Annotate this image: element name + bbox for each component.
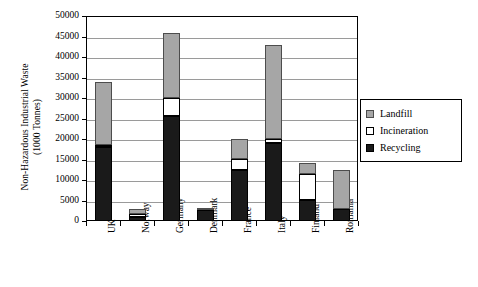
y-axis-tick-label: 0	[31, 216, 79, 226]
stacked-bar-chart: Non-Hazardous Industrial Waste (1000 Ton…	[0, 0, 478, 287]
bar-segment-recycling	[163, 116, 180, 221]
y-axis-tick-mark	[82, 78, 86, 79]
chart-legend: Landfill Incineration Recycling	[360, 99, 462, 162]
y-axis-tick-label: 20000	[31, 134, 79, 144]
bar-segment-landfill	[129, 209, 146, 214]
bar-segment-recycling	[95, 147, 112, 221]
bar-segment-recycling	[299, 200, 316, 221]
bar-segment-recycling	[197, 210, 214, 221]
y-axis-tick-mark	[82, 180, 86, 181]
y-axis-tick-mark	[82, 98, 86, 99]
x-axis-tick-mark	[154, 221, 155, 226]
incineration-swatch-icon	[366, 127, 374, 135]
bar-segment-incineration	[299, 174, 316, 200]
bar-segment-landfill	[265, 45, 282, 139]
gridline	[87, 140, 357, 141]
bar-group	[265, 16, 282, 221]
landfill-swatch-icon	[366, 110, 374, 118]
bar-segment-incineration	[265, 139, 282, 144]
bar-segment-incineration	[163, 98, 180, 116]
x-axis-tick-mark	[290, 221, 291, 226]
legend-item-landfill: Landfill	[366, 105, 457, 122]
plot-area	[86, 16, 358, 221]
y-axis-tick-mark	[82, 160, 86, 161]
gridline	[87, 120, 357, 121]
bar-group	[333, 16, 350, 221]
bar-segment-landfill	[95, 82, 112, 145]
bar-segment-recycling	[129, 217, 146, 221]
gridline	[87, 58, 357, 59]
bar-segment-landfill	[197, 208, 214, 210]
gridline	[87, 202, 357, 203]
bar-group	[197, 16, 214, 221]
x-axis-tick-mark	[120, 221, 121, 226]
bar-group	[163, 16, 180, 221]
bar-group	[231, 16, 248, 221]
bar-segment-landfill	[299, 163, 316, 174]
legend-label-landfill: Landfill	[380, 108, 412, 119]
x-axis-tick-mark	[222, 221, 223, 226]
bar-segment-recycling	[231, 170, 248, 221]
y-axis-tick-mark	[82, 139, 86, 140]
bar-segment-recycling	[333, 209, 350, 221]
x-axis-tick-mark	[324, 221, 325, 226]
legend-item-incineration: Incineration	[366, 122, 457, 139]
y-axis-tick-label: 45000	[31, 32, 79, 42]
bar-group	[299, 16, 316, 221]
y-axis-tick-mark	[82, 16, 86, 17]
legend-item-recycling: Recycling	[366, 139, 457, 156]
y-axis-tick-mark	[82, 201, 86, 202]
bar-segment-incineration	[129, 214, 146, 217]
legend-label-incineration: Incineration	[380, 125, 428, 136]
bar-group	[129, 16, 146, 221]
y-axis-tick-label: 25000	[31, 114, 79, 124]
gridline	[87, 38, 357, 39]
y-axis-tick-label: 10000	[31, 175, 79, 185]
y-axis-title-line-1: Non-Hazardous Industrial Waste	[19, 27, 31, 227]
x-axis-category-label: UK	[107, 219, 117, 233]
bar-group	[95, 16, 112, 221]
y-axis-tick-label: 5000	[31, 196, 79, 206]
bar-segment-incineration	[231, 159, 248, 170]
y-axis-tick-label: 50000	[31, 11, 79, 21]
recycling-swatch-icon	[366, 144, 374, 152]
y-axis-tick-label: 35000	[31, 73, 79, 83]
gridline	[87, 99, 357, 100]
gridline	[87, 161, 357, 162]
x-axis-tick-mark	[188, 221, 189, 226]
x-axis-tick-mark	[256, 221, 257, 226]
bar-segment-incineration	[95, 145, 112, 147]
x-axis-tick-mark	[86, 221, 87, 226]
bar-segment-landfill	[163, 33, 180, 98]
gridline	[87, 181, 357, 182]
y-axis-tick-label: 40000	[31, 52, 79, 62]
bar-segment-recycling	[265, 143, 282, 221]
bar-segment-landfill	[231, 139, 248, 159]
y-axis-tick-mark	[82, 37, 86, 38]
y-axis-tick-label: 15000	[31, 155, 79, 165]
y-axis-tick-label: 30000	[31, 93, 79, 103]
y-axis-tick-mark	[82, 57, 86, 58]
gridline	[87, 79, 357, 80]
y-axis-tick-mark	[82, 119, 86, 120]
x-axis-tick-mark	[358, 221, 359, 226]
legend-label-recycling: Recycling	[380, 142, 421, 153]
bar-segment-landfill	[333, 170, 350, 209]
